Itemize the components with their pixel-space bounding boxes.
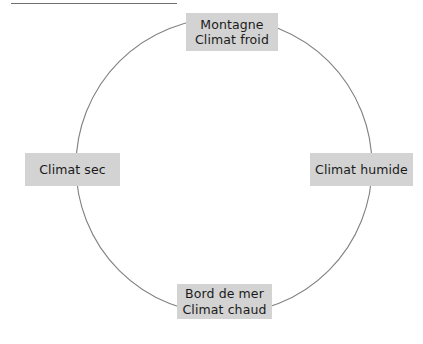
- node-climat-humide[interactable]: Climat humide: [310, 153, 413, 186]
- node-label-line: Climat chaud: [183, 302, 267, 317]
- node-montagne-climat-froid[interactable]: Montagne Climat froid: [186, 13, 278, 51]
- node-label-line: Climat froid: [195, 32, 269, 47]
- node-bord-de-mer-climat-chaud[interactable]: Bord de mer Climat chaud: [177, 284, 272, 319]
- node-label-line: Climat humide: [315, 162, 408, 177]
- diagram-page: Montagne Climat froid Climat humide Bord…: [0, 0, 423, 344]
- node-climat-sec[interactable]: Climat sec: [25, 153, 120, 186]
- node-label-line: Montagne: [200, 17, 263, 32]
- node-label-line: Bord de mer: [185, 286, 264, 301]
- node-label-line: Climat sec: [39, 162, 105, 177]
